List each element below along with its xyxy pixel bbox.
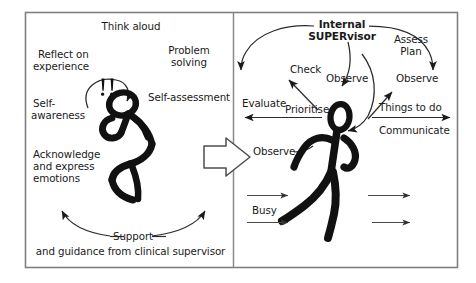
label-check: Check [290, 63, 321, 75]
label-think-aloud: Think aloud [88, 20, 174, 32]
label-assess-plan-line1: Assess [388, 33, 434, 45]
label-acknowledge-line3: emotions [33, 172, 80, 184]
label-acknowledge-line1: Acknowledge [33, 148, 100, 160]
label-assess-plan-line2: Plan [388, 45, 434, 57]
label-things-to-do: Things to do [379, 101, 442, 113]
label-support-line2: and guidance from clinical supervisor [28, 245, 233, 257]
label-problem-solving-line2: solving [160, 56, 218, 68]
label-internal-supervisor-line1: Internal [302, 18, 382, 31]
label-problem-solving-line1: Problem [160, 44, 218, 56]
label-busy: Busy [252, 204, 277, 216]
label-prioritise: Prioritise [285, 103, 329, 115]
label-internal-supervisor-line2: SUPERvisor [296, 30, 388, 43]
label-observe-right: Observe [396, 72, 438, 84]
label-acknowledge-line2: and express [33, 160, 94, 172]
label-self-assessment: Self-assessment [148, 91, 230, 103]
diagram-canvas: Think aloud Reflect on experience Proble… [0, 0, 476, 283]
label-self-awareness-line1: Self- [33, 97, 55, 109]
label-evaluate: Evaluate [242, 97, 286, 109]
label-self-awareness-line2: awareness [31, 109, 85, 121]
label-observe-top: Observe [326, 72, 368, 84]
label-support-line1: Support [108, 230, 158, 242]
label-observe-left: Observe [253, 145, 295, 157]
label-communicate: Communicate [379, 124, 450, 136]
label-reflect-on-experience-line1: Reflect on [38, 48, 89, 60]
label-reflect-on-experience-line2: experience [33, 60, 89, 72]
